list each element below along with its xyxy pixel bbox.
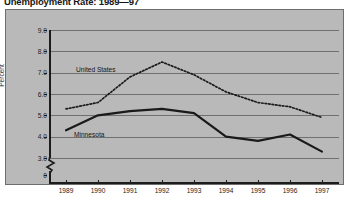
x-tick-label: 1992 — [144, 187, 180, 194]
series-label-united-states: United States — [76, 66, 116, 73]
chart-panel: 9.08.07.06.05.04.03.00 19891990199119921… — [5, 9, 344, 185]
x-tick-label: 1996 — [272, 187, 308, 194]
x-tick-label: 1995 — [240, 187, 276, 194]
x-tick-label: 1997 — [304, 187, 340, 194]
chart-page: Unemployment Rate: 1989—97 9.08.07.06.05… — [0, 0, 349, 203]
x-tick-label: 1991 — [112, 187, 148, 194]
series-label-minnesota: Minnesota — [74, 131, 104, 138]
page-title: Unemployment Rate: 1989—97 — [4, 0, 139, 7]
series-plot — [6, 10, 345, 186]
x-tick-label: 1994 — [208, 187, 244, 194]
x-tick-label: 1993 — [176, 187, 212, 194]
x-tick-label: 1989 — [48, 187, 84, 194]
y-axis-title: Percent — [0, 64, 5, 87]
x-tick-label: 1990 — [80, 187, 116, 194]
